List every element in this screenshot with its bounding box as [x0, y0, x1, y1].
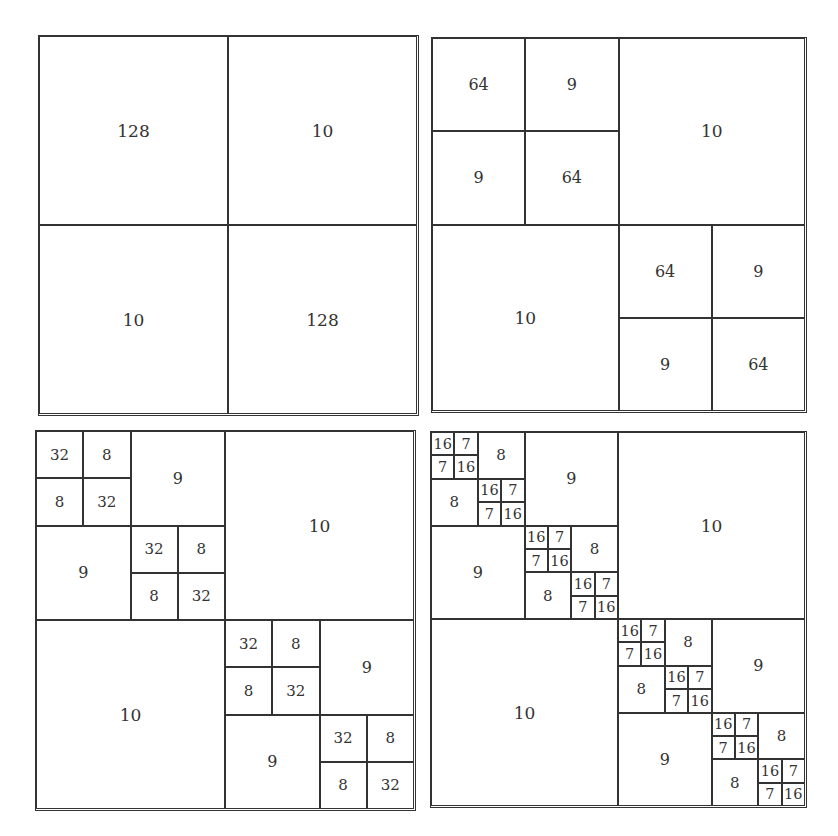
matrix-block: 16 [782, 783, 805, 806]
matrix-block: 8 [712, 759, 759, 806]
matrix-block: 32 [83, 478, 130, 525]
matrix-block: 9 [525, 38, 618, 131]
matrix-block: 7 [548, 526, 571, 549]
matrix-block: 9 [618, 713, 712, 807]
panel-level-4: 1677168816771699167716881677161010167716… [430, 431, 807, 808]
matrix-block: 7 [454, 432, 477, 455]
matrix-block: 8 [83, 431, 130, 478]
matrix-block: 16 [548, 549, 571, 572]
matrix-block: 10 [225, 431, 414, 620]
matrix-block: 10 [619, 38, 806, 225]
matrix-block: 16 [478, 479, 501, 502]
matrix-block: 10 [618, 432, 805, 619]
matrix-block: 7 [712, 736, 735, 759]
matrix-block: 16 [454, 455, 477, 478]
matrix-block: 32 [131, 526, 178, 573]
matrix-block: 7 [735, 713, 758, 736]
matrix-block: 32 [225, 620, 272, 667]
matrix-block: 7 [641, 619, 664, 642]
matrix-block: 64 [712, 318, 805, 411]
matrix-block: 9 [131, 431, 226, 526]
matrix-block: 64 [619, 225, 712, 318]
matrix-block: 8 [525, 572, 572, 619]
matrix-block: 7 [618, 642, 641, 665]
matrix-block: 7 [501, 479, 524, 502]
matrix-block: 8 [758, 713, 805, 760]
matrix-block: 16 [501, 502, 524, 525]
matrix-block: 32 [272, 667, 319, 714]
matrix-block: 10 [39, 225, 228, 414]
panel-level-1: 1281010128 [38, 35, 419, 416]
matrix-block: 32 [36, 431, 83, 478]
matrix-block: 128 [39, 36, 228, 225]
matrix-block: 7 [431, 455, 454, 478]
matrix-block: 8 [665, 619, 712, 666]
matrix-block: 8 [320, 762, 367, 809]
matrix-block: 16 [735, 736, 758, 759]
matrix-block: 32 [178, 573, 225, 620]
matrix-block: 16 [618, 619, 641, 642]
matrix-block: 8 [431, 479, 478, 526]
matrix-block: 16 [758, 759, 781, 782]
matrix-block: 16 [641, 642, 664, 665]
matrix-block: 9 [712, 619, 806, 713]
matrix-block: 9 [36, 526, 131, 621]
matrix-block: 9 [432, 131, 525, 224]
matrix-block: 16 [688, 689, 711, 712]
matrix-block: 7 [525, 549, 548, 572]
matrix-block: 8 [618, 666, 665, 713]
matrix-block: 7 [688, 666, 711, 689]
matrix-block: 8 [131, 573, 178, 620]
matrix-block: 9 [225, 715, 320, 810]
matrix-block: 7 [571, 596, 594, 619]
matrix-block: 16 [431, 432, 454, 455]
panel-level-2: 6499641010649964 [431, 37, 807, 413]
matrix-block: 7 [782, 759, 805, 782]
matrix-block: 8 [178, 526, 225, 573]
matrix-block: 7 [665, 689, 688, 712]
matrix-block: 9 [712, 225, 805, 318]
matrix-block: 32 [367, 762, 414, 809]
matrix-block: 16 [525, 526, 548, 549]
matrix-block: 9 [320, 620, 415, 715]
matrix-block: 16 [712, 713, 735, 736]
matrix-block: 9 [431, 526, 525, 620]
panel-level-3: 32883299328832101032883299328832 [35, 430, 416, 811]
matrix-block: 10 [36, 620, 225, 809]
matrix-block: 16 [595, 596, 618, 619]
matrix-block: 8 [478, 432, 525, 479]
matrix-block: 32 [320, 715, 367, 762]
matrix-block: 64 [432, 38, 525, 131]
matrix-block: 9 [619, 318, 712, 411]
matrix-block: 8 [225, 667, 272, 714]
matrix-block: 7 [595, 572, 618, 595]
matrix-block: 8 [571, 526, 618, 573]
matrix-block: 10 [431, 619, 618, 806]
matrix-block: 8 [272, 620, 319, 667]
matrix-block: 10 [432, 225, 619, 412]
matrix-block: 10 [228, 36, 417, 225]
matrix-block: 128 [228, 225, 417, 414]
matrix-block: 7 [478, 502, 501, 525]
matrix-block: 8 [367, 715, 414, 762]
matrix-block: 8 [36, 478, 83, 525]
matrix-block: 7 [758, 783, 781, 806]
matrix-block: 16 [571, 572, 594, 595]
matrix-block: 9 [525, 432, 619, 526]
matrix-block: 16 [665, 666, 688, 689]
matrix-block: 64 [525, 131, 618, 224]
